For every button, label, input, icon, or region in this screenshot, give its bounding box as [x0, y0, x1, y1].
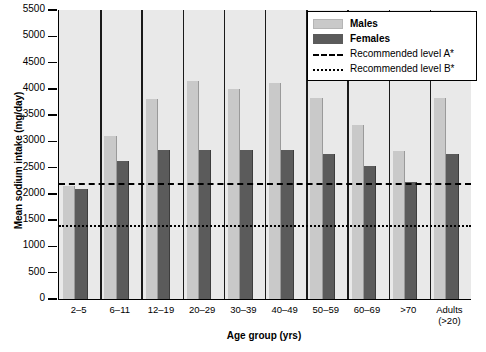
x-axis-label: 2–5 — [58, 304, 99, 315]
legend-label: Recommended level B* — [350, 63, 455, 74]
legend-label: Males — [350, 18, 378, 29]
y-tick-label: 4500 — [5, 56, 45, 67]
x-axis-label: >70 — [388, 304, 429, 315]
y-tick-label: 1500 — [5, 213, 45, 224]
y-tick-label: 4000 — [5, 82, 45, 93]
y-tick-mark — [48, 193, 57, 194]
y-tick-mark — [48, 219, 57, 220]
y-tick-label: 2000 — [5, 187, 45, 198]
x-axis-label: 30–39 — [223, 304, 264, 315]
legend-item: Females — [313, 31, 471, 46]
y-tick-mark — [48, 141, 57, 142]
y-tick-label: 1000 — [5, 239, 45, 250]
x-axis-label: Adults (>20) — [429, 304, 470, 326]
y-tick-label: 5500 — [5, 3, 45, 14]
legend-item: Males — [313, 16, 471, 31]
legend-label: Recommended level A* — [350, 48, 454, 59]
y-tick-mark — [48, 62, 57, 63]
y-tick-mark — [48, 246, 57, 247]
legend-swatch-female — [313, 34, 343, 44]
y-tick-label: 5000 — [5, 29, 45, 40]
reference-line-dashed — [59, 183, 471, 185]
legend-label: Females — [350, 33, 390, 44]
y-tick-mark — [48, 114, 57, 115]
x-axis-label: 20–29 — [182, 304, 223, 315]
legend-item: Recommended level A* — [313, 46, 471, 61]
y-tick-mark — [48, 298, 57, 299]
x-axis-label: 40–49 — [264, 304, 305, 315]
y-tick-mark — [48, 272, 57, 273]
legend-line-glyph — [313, 69, 343, 71]
legend-line-glyph — [313, 54, 343, 56]
chart-legend: MalesFemalesRecommended level A*Recommen… — [307, 11, 477, 81]
y-tick-label: 500 — [5, 266, 45, 277]
x-axis-label: 60–69 — [346, 304, 387, 315]
x-axis-label: 6–11 — [99, 304, 140, 315]
y-tick-label: 3000 — [5, 134, 45, 145]
legend-item: Recommended level B* — [313, 61, 471, 76]
x-axis-label: 50–59 — [305, 304, 346, 315]
x-axis-title: Age group (yrs) — [58, 330, 470, 341]
y-tick-mark — [48, 36, 57, 37]
y-tick-label: 0 — [5, 292, 45, 303]
sodium-intake-bar-chart: Mean sodium intake (mg/day) 050010001500… — [0, 0, 486, 352]
x-axis-label: 12–19 — [140, 304, 181, 315]
legend-line-dashed — [313, 49, 343, 59]
y-tick-label: 2500 — [5, 161, 45, 172]
y-tick-label: 3500 — [5, 108, 45, 119]
y-tick-mark — [48, 167, 57, 168]
legend-swatch-male — [313, 19, 343, 29]
y-tick-mark — [48, 88, 57, 89]
legend-line-dotted — [313, 64, 343, 74]
y-tick-mark — [48, 9, 57, 10]
reference-line-dotted — [59, 225, 471, 227]
